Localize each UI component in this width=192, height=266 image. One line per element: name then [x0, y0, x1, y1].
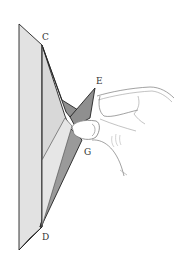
hand-crease-marks: [112, 134, 121, 147]
origami-diagram: C E G D: [0, 0, 192, 266]
hand-palm-line: [100, 119, 136, 131]
label-d: D: [42, 232, 49, 242]
hand-finger-tip: [99, 96, 138, 116]
hand-palm: [92, 140, 124, 176]
label-e: E: [96, 76, 103, 86]
label-g: G: [84, 147, 91, 157]
label-c: C: [42, 32, 49, 42]
hand-knuckle: [134, 96, 145, 124]
paper-back-panel: [19, 24, 42, 250]
